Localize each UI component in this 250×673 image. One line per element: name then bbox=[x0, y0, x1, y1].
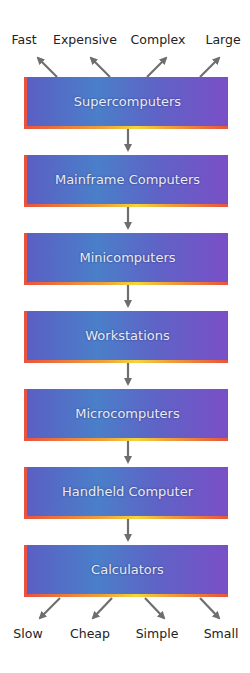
label-expensive: Expensive bbox=[53, 32, 117, 47]
box-handheld-computer: Handheld Computer bbox=[27, 467, 228, 516]
box-supercomputers: Supercomputers bbox=[27, 77, 228, 126]
box-label: Handheld Computer bbox=[62, 484, 193, 499]
label-simple: Simple bbox=[136, 626, 179, 641]
label-large: Large bbox=[205, 32, 240, 47]
box-workstations: Workstations bbox=[27, 311, 228, 360]
arrow-fast bbox=[38, 58, 57, 77]
arrow-large bbox=[200, 58, 219, 77]
box-label: Workstations bbox=[85, 328, 169, 343]
arrow-slow bbox=[40, 598, 60, 618]
box-minicomputers: Minicomputers bbox=[27, 233, 228, 282]
arrow-cheap bbox=[93, 598, 112, 618]
box-label: Supercomputers bbox=[74, 94, 181, 109]
label-slow: Slow bbox=[13, 626, 42, 641]
box-mainframe-computers: Mainframe Computers bbox=[27, 155, 228, 204]
label-complex: Complex bbox=[131, 32, 186, 47]
box-label: Microcomputers bbox=[75, 406, 179, 421]
arrow-complex bbox=[147, 58, 166, 77]
box-microcomputers: Microcomputers bbox=[27, 389, 228, 438]
box-label: Minicomputers bbox=[79, 250, 175, 265]
label-fast: Fast bbox=[11, 32, 36, 47]
box-label: Calculators bbox=[91, 562, 164, 577]
arrow-simple bbox=[145, 598, 164, 618]
arrow-expensive bbox=[91, 58, 110, 77]
box-label: Mainframe Computers bbox=[55, 172, 200, 187]
label-cheap: Cheap bbox=[70, 626, 110, 641]
box-calculators: Calculators bbox=[27, 545, 228, 594]
arrow-small bbox=[200, 598, 219, 618]
label-small: Small bbox=[204, 626, 239, 641]
